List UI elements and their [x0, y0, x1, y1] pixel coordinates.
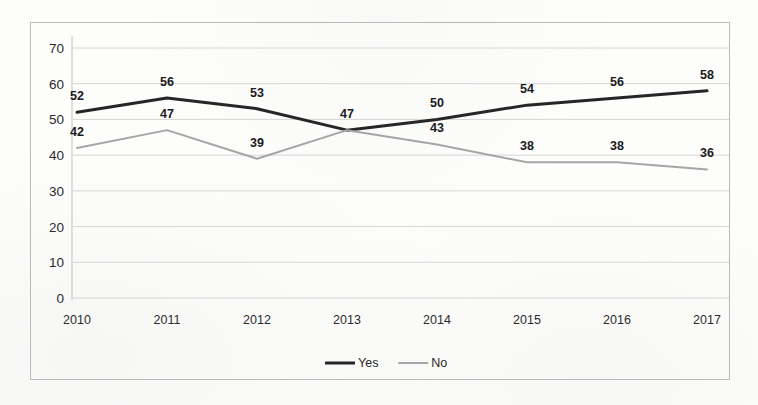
- data-label-shared: 47: [340, 107, 354, 121]
- legend-label-no: No: [431, 356, 447, 370]
- series-lines: [77, 91, 707, 170]
- y-tick-label: 0: [56, 291, 64, 306]
- data-label-no: 38: [610, 139, 624, 153]
- page-background: 010203040506070 201020112012201320142015…: [0, 0, 758, 405]
- x-axis-tick-labels: 20102011201220132014201520162017: [63, 313, 721, 327]
- y-tick-label: 70: [49, 41, 64, 56]
- data-label-no: 43: [430, 121, 444, 135]
- data-label-yes: 54: [520, 82, 534, 96]
- legend-label-yes: Yes: [358, 356, 378, 370]
- data-label-no: 36: [700, 146, 714, 160]
- x-tick-label: 2016: [603, 313, 631, 327]
- data-label-yes: 50: [430, 96, 444, 110]
- data-label-yes: 52: [70, 89, 84, 103]
- data-label-no: 42: [70, 125, 84, 139]
- x-tick-label: 2013: [333, 313, 361, 327]
- y-tick-label: 40: [49, 148, 64, 163]
- x-tick-label: 2015: [513, 313, 541, 327]
- data-label-no: 39: [250, 136, 264, 150]
- data-label-yes: 56: [160, 75, 174, 89]
- y-axis-tick-labels: 010203040506070: [49, 41, 64, 306]
- data-label-yes: 58: [700, 68, 714, 82]
- y-tick-label: 20: [49, 220, 64, 235]
- x-tick-label: 2012: [243, 313, 271, 327]
- y-tick-label: 60: [49, 77, 64, 92]
- chart-frame: 010203040506070 201020112012201320142015…: [30, 22, 730, 380]
- line-chart: 010203040506070 201020112012201320142015…: [31, 23, 729, 379]
- x-tick-label: 2010: [63, 313, 91, 327]
- data-label-yes: 56: [610, 75, 624, 89]
- x-tick-label: 2017: [693, 313, 721, 327]
- y-tick-label: 50: [49, 112, 64, 127]
- data-label-no: 47: [160, 107, 174, 121]
- y-tick-label: 30: [49, 184, 64, 199]
- x-tick-label: 2014: [423, 313, 451, 327]
- x-tick-label: 2011: [154, 313, 181, 327]
- data-point-labels: 525653505456584247394338383647: [70, 68, 714, 161]
- chart-legend: YesNo: [325, 356, 447, 370]
- data-label-no: 38: [520, 139, 534, 153]
- y-tick-label: 10: [49, 255, 64, 270]
- data-label-yes: 53: [250, 86, 264, 100]
